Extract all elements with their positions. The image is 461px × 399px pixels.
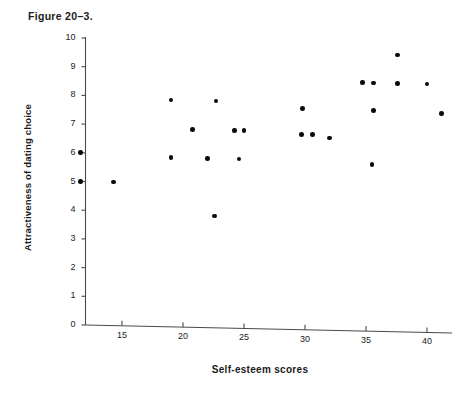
data-point — [310, 132, 315, 137]
data-point — [360, 80, 365, 85]
data-point — [327, 136, 332, 141]
data-point — [78, 150, 83, 155]
x-tick-label: 15 — [109, 330, 135, 340]
x-tick-label: 25 — [231, 332, 257, 342]
data-point — [78, 179, 83, 184]
data-point — [205, 156, 210, 161]
data-point — [395, 53, 400, 58]
y-tick-label: 5 — [52, 176, 76, 186]
data-point — [300, 106, 305, 111]
data-point — [439, 111, 444, 116]
data-point — [111, 180, 116, 185]
y-tick-label: 3 — [52, 233, 76, 243]
data-point — [212, 214, 217, 219]
y-tick-label: 4 — [52, 204, 76, 214]
scatter-plot: Figure 20–3. Attractiveness of dating ch… — [0, 0, 461, 399]
x-tick-label: 35 — [353, 335, 379, 345]
data-point — [190, 127, 195, 132]
y-tick-label: 7 — [52, 118, 76, 128]
data-point — [242, 128, 247, 133]
data-point — [371, 81, 376, 86]
y-tick-label: 10 — [52, 32, 76, 42]
y-tick-label: 6 — [52, 147, 76, 157]
x-tick-label: 20 — [170, 331, 196, 341]
x-tick-label: 30 — [292, 334, 318, 344]
data-point — [299, 132, 304, 137]
data-point — [371, 108, 376, 113]
y-tick-label: 8 — [52, 89, 76, 99]
y-tick-label: 0 — [52, 319, 76, 329]
data-point — [395, 81, 400, 86]
y-tick-label: 1 — [52, 290, 76, 300]
data-point — [169, 155, 174, 160]
data-point — [232, 128, 237, 133]
y-tick-label: 9 — [52, 61, 76, 71]
y-tick-label: 2 — [52, 262, 76, 272]
x-tick-label: 40 — [414, 336, 440, 346]
